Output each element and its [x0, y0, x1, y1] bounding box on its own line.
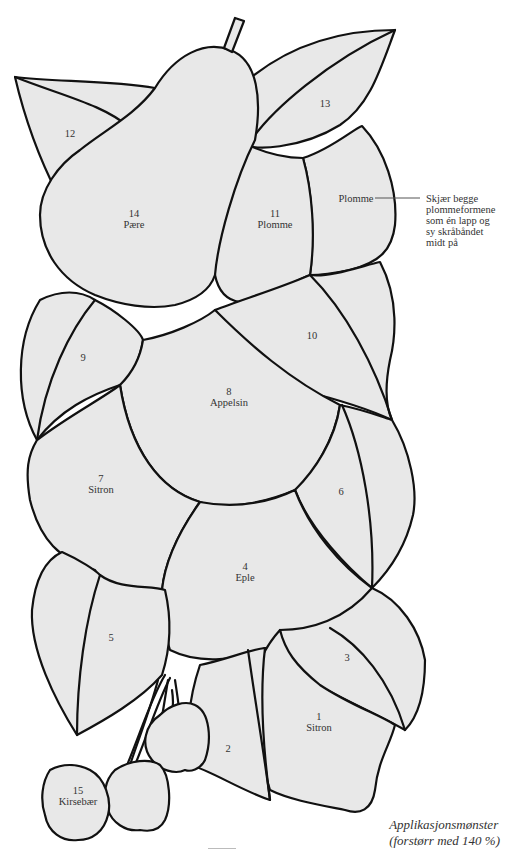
label-piece-9: 9 — [80, 352, 85, 363]
label-piece-11: 11Plomme — [257, 208, 292, 230]
label-piece-14: 14Pære — [124, 208, 145, 230]
label-piece-15: 15Kirsebær — [59, 785, 98, 807]
cherry-middle — [105, 761, 169, 831]
applique-pattern-drawing — [0, 0, 524, 856]
footer-rule — [208, 848, 236, 849]
piece-13-leaf — [242, 30, 395, 148]
label-piece-5: 5 — [108, 632, 113, 643]
label-piece-10: 10 — [307, 330, 318, 341]
label-piece-3: 3 — [344, 652, 349, 663]
pear-stem — [224, 18, 244, 52]
label-piece-12: 12 — [65, 128, 76, 139]
label-piece-2: 2 — [225, 743, 230, 754]
label-piece-4: 4Eple — [235, 561, 254, 583]
label-piece-8: 8Appelsin — [210, 386, 248, 408]
label-piece-13: 13 — [320, 98, 331, 109]
pattern-caption: Applikasjonsmønster (forstørr med 140 %) — [389, 817, 500, 849]
plum-note: Skjær begge plommeformene som én lapp og… — [426, 193, 495, 248]
label-piece-6: 6 — [338, 486, 343, 497]
label-piece-1: 1Sitron — [306, 711, 332, 733]
label-plomme-right: Plomme — [338, 193, 373, 204]
label-piece-7: 7Sitron — [88, 473, 114, 495]
